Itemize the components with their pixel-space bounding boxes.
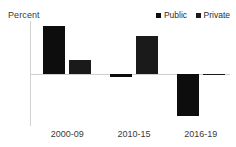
x-axis-label-1: 2010-15 (110, 129, 158, 139)
legend-item-private: Private (196, 10, 230, 20)
bar-public-2000-09 (43, 26, 65, 74)
bar-public-2016-19 (177, 74, 199, 117)
bar-public-2010-15 (110, 74, 132, 77)
y-axis-unit-label: Percent (8, 10, 40, 20)
legend-label-private: Private (204, 10, 230, 20)
bar-chart: Percent Public Private 8 4 0 -4 -8 2000-… (0, 0, 236, 147)
legend-label-public: Public (164, 10, 187, 20)
x-axis-label-2: 2016-19 (177, 129, 225, 139)
legend-swatch-public-icon (156, 13, 161, 18)
bar-group-2010-15: 2010-15 (110, 21, 158, 126)
bar-group-2016-19: 2016-19 (177, 21, 225, 126)
bar-private-2010-15 (136, 36, 158, 73)
bar-private-2000-09 (69, 60, 91, 73)
bar-private-2016-19 (203, 74, 225, 76)
legend-swatch-private-icon (196, 13, 201, 18)
legend-item-public: Public (156, 10, 187, 20)
bar-group-2000-09: 2000-09 (43, 21, 91, 126)
plot-area: 8 4 0 -4 -8 2000-09 2010-15 2016-19 (30, 21, 230, 126)
chart-legend: Public Private (156, 10, 230, 20)
x-axis-label-0: 2000-09 (43, 129, 91, 139)
